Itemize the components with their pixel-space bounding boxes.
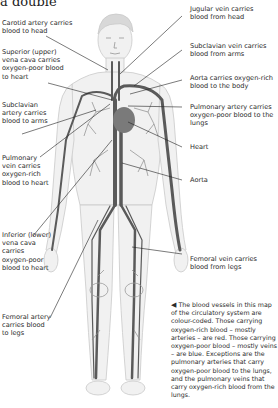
label-femoral-vein: Femoral vein carries blood from legs — [190, 255, 270, 271]
heart-shape — [113, 107, 135, 133]
label-subclavian-artery: Subclavian artery carries blood to arms — [2, 101, 48, 126]
label-femoral-artery: Femoral artery carries blood to legs — [2, 313, 52, 338]
label-aorta: Aorta — [190, 176, 270, 184]
label-pulmonary-artery: Pulmonary artery carries oxygen-poor blo… — [190, 103, 278, 128]
label-aorta-oxygen-rich: Aorta carries oxygen-rich blood to the b… — [190, 74, 278, 90]
label-pulmonary-vein: Pulmonary vein carries oxygen-rich blood… — [2, 154, 50, 187]
label-jugular-vein: Jugular vein carries blood from head — [190, 5, 270, 21]
caption-text: The blood vessels in this map of the cir… — [171, 301, 277, 398]
label-superior-vena-cava: Superior (upper) vena cava carries oxyge… — [2, 48, 68, 81]
label-subclavian-vein: Subclavian vein carries blood from arms — [190, 42, 278, 58]
label-heart: Heart — [190, 143, 270, 151]
left-arrow-icon: ◀ — [171, 301, 176, 309]
figure-caption: ◀ The blood vessels in this map of the c… — [171, 301, 278, 399]
label-inferior-vena-cava: Inferior (lower) vena cava carries oxyge… — [2, 231, 52, 272]
label-carotid-artery: Carotid artery carries blood to head — [2, 19, 76, 35]
